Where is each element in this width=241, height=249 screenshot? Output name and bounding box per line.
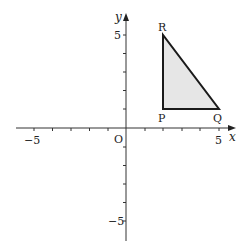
y-axis-label: y xyxy=(114,10,122,24)
x-axis-label: x xyxy=(229,130,236,144)
vertex-label-r: R xyxy=(158,21,167,34)
diagram-canvas: x y O −5 5 5 −5 P Q R xyxy=(0,0,241,249)
y-axis-arrow-icon xyxy=(123,13,129,21)
y-tick-label-5: 5 xyxy=(114,29,121,42)
coordinate-diagram: x y O −5 5 5 −5 P Q R xyxy=(0,0,241,249)
vertex-label-q: Q xyxy=(213,112,222,125)
x-axis xyxy=(16,128,232,131)
origin-label: O xyxy=(114,133,123,146)
y-axis xyxy=(123,18,126,241)
vertex-label-p: P xyxy=(158,112,166,125)
x-tick-label-5: 5 xyxy=(215,134,222,147)
x-tick-label-neg5: −5 xyxy=(24,134,40,147)
triangle-pqr xyxy=(163,35,219,109)
y-tick-label-neg5: −5 xyxy=(108,215,124,228)
